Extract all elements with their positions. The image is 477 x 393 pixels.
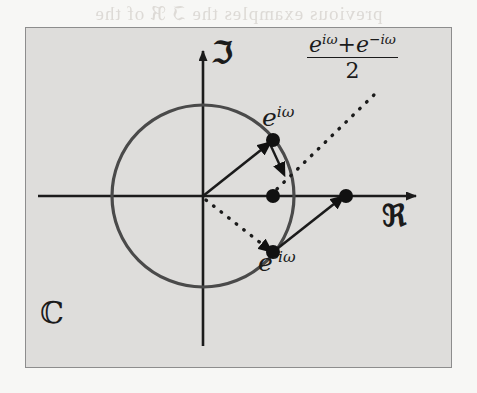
point-sum-on-real-axis [339, 189, 353, 203]
complex-plane-symbol: ℂ [40, 295, 64, 330]
point-e-plus-i-omega [266, 133, 280, 147]
label-e-plus-i-omega-exponent: iω [277, 103, 295, 121]
vector-e-plus-i-omega [203, 146, 266, 196]
label-e-minus-i-omega-exponent: -iω [273, 248, 296, 266]
real-axis-label: ℜ [382, 198, 406, 233]
sum-numerator: eiω+e−iω [307, 32, 398, 58]
label-sum-fraction: eiω+e−iω 2 [307, 32, 398, 83]
label-e-minus-i-omega: e-iω [258, 248, 296, 277]
dotted-vector-e-minus-i-omega [206, 200, 267, 248]
figure-page: previous examples the ℑ ℜ of the [0, 0, 477, 393]
imaginary-axis-label: ℑ [212, 35, 233, 70]
sum-denominator: 2 [307, 58, 398, 82]
scan-bleedthrough-text: previous examples the ℑ ℜ of the [0, 2, 477, 28]
vector-sum [273, 200, 339, 252]
point-midpoint-sum [266, 189, 280, 203]
label-e-plus-i-omega: eiω [262, 103, 294, 132]
